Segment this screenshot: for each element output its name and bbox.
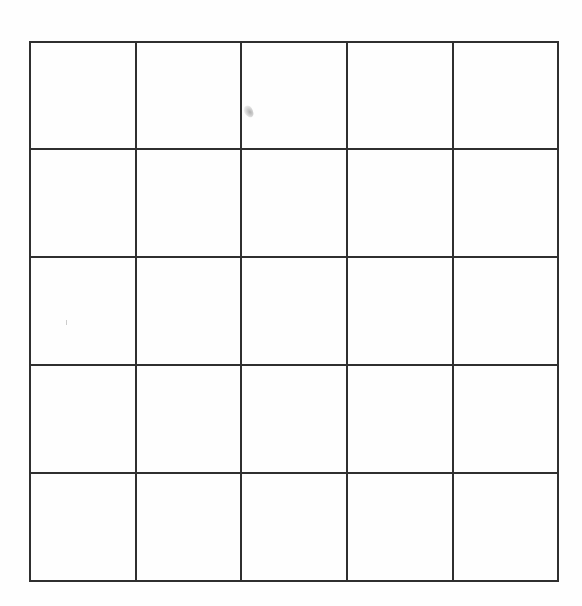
grid-cell-r2-c1 xyxy=(31,150,135,256)
grid-cell-r1-c3 xyxy=(242,43,346,148)
grid-cell-r1-c5 xyxy=(454,43,557,148)
grid-cell-r4-c5 xyxy=(454,366,557,472)
grid-cell-r3-c2 xyxy=(137,258,240,364)
grid-cell-r5-c5 xyxy=(454,474,557,580)
grid-cell-r5-c2 xyxy=(137,474,240,580)
grid-cell-r4-c2 xyxy=(137,366,240,472)
grid-cell-r1-c2 xyxy=(137,43,240,148)
faint-speck-mark xyxy=(66,320,67,325)
grid-cell-r1-c4 xyxy=(348,43,452,148)
grid-cell-r5-c4 xyxy=(348,474,452,580)
grid-cell-r2-c4 xyxy=(348,150,452,256)
grid-cell-r4-c1 xyxy=(31,366,135,472)
grid-cell-r3-c4 xyxy=(348,258,452,364)
grid-cell-r4-c4 xyxy=(348,366,452,472)
worksheet-page xyxy=(0,0,582,606)
grid-cell-r1-c1 xyxy=(31,43,135,148)
grid-cell-r3-c5 xyxy=(454,258,557,364)
grid-cell-r2-c3 xyxy=(242,150,346,256)
grid-cell-r2-c2 xyxy=(137,150,240,256)
grid-cell-r3-c3 xyxy=(242,258,346,364)
grid-cell-r4-c3 xyxy=(242,366,346,472)
grid-cell-r5-c1 xyxy=(31,474,135,580)
grid-cell-r3-c1 xyxy=(31,258,135,364)
grid-cell-r5-c3 xyxy=(242,474,346,580)
grid-cell-r2-c5 xyxy=(454,150,557,256)
